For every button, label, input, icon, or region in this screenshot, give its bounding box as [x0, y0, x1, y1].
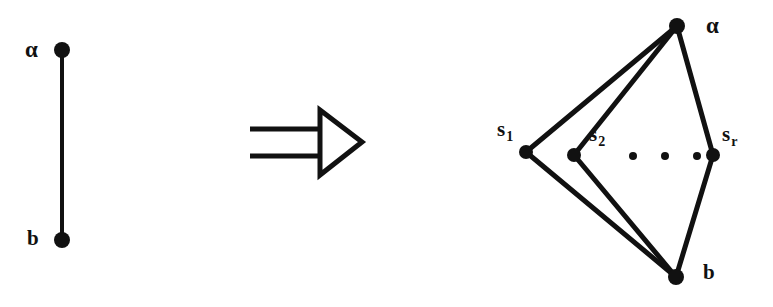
vertex-sr [706, 148, 720, 162]
edge-sr-b [676, 155, 713, 277]
label-right-vertex-s2: s2 [589, 124, 604, 145]
label-s2-base: s [589, 122, 597, 146]
label-sr-subscript: r [731, 134, 737, 149]
diagram-vector-layer [0, 0, 773, 307]
edge-a-sr [677, 26, 713, 155]
right-graph [519, 18, 720, 285]
vertex-a [54, 42, 70, 58]
ellipsis-dot [629, 152, 637, 160]
ellipsis-dot [693, 152, 701, 160]
label-right-vertex-s1: s1 [497, 119, 512, 140]
label-left-vertex-a: α [25, 38, 38, 61]
vertex-b [54, 232, 70, 248]
label-right-vertex-a: α [706, 14, 719, 37]
label-sr-base: s [722, 122, 730, 146]
arrow-head [320, 110, 362, 175]
edge-s1-b [526, 152, 676, 277]
edge-s2-b [574, 155, 676, 277]
label-s1-base: s [497, 117, 505, 141]
label-right-vertex-b: b [703, 262, 715, 283]
vertex-s1 [519, 145, 533, 159]
label-right-vertex-sr: sr [722, 124, 736, 145]
vertex-b [668, 269, 684, 285]
ellipsis-dot [661, 152, 669, 160]
diagram-canvas: α b α s1 s2 sr b [0, 0, 773, 307]
label-s2-subscript: 2 [598, 134, 605, 149]
label-s1-subscript: 1 [506, 129, 513, 144]
implies-arrow [250, 110, 362, 175]
label-left-vertex-b: b [27, 228, 39, 249]
vertex-a [669, 18, 685, 34]
vertex-s2 [567, 148, 581, 162]
left-graph [54, 42, 70, 248]
